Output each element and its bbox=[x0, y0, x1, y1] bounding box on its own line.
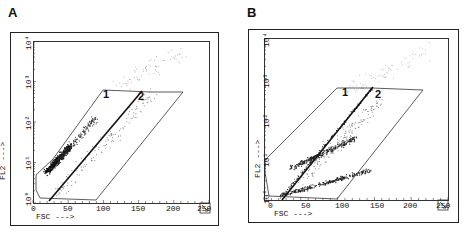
panel-b-y-tick-3: 10³ bbox=[262, 74, 271, 88]
panel-a-gate-label-2: 2 bbox=[138, 90, 144, 102]
panel-a-y-tick-4: 10⁴ bbox=[24, 36, 33, 50]
panel-b-gate-label-1: 1 bbox=[342, 86, 348, 98]
panel-a-gate-label-1: 1 bbox=[103, 88, 109, 100]
panel-a-y-tick-1: 10¹ bbox=[24, 156, 33, 170]
panel-b-x-tick-200: 200 bbox=[403, 201, 417, 210]
panel-b-y-axis-label: FL2 ---> bbox=[253, 140, 262, 178]
panel-b-y-tick-1: 10¹ bbox=[262, 153, 271, 167]
panel-a-y-axis-label: FL2 ---> bbox=[0, 142, 7, 180]
panel-a-x-axis-label: FSC ---> bbox=[36, 212, 74, 221]
panel-b-x-tick-100: 100 bbox=[335, 201, 349, 210]
panel-b-gate-label-2: 2 bbox=[375, 88, 381, 100]
panel-a-y-tick-2: 10² bbox=[24, 116, 33, 130]
panel-a-y-tick-0: 10⁰ bbox=[24, 192, 33, 206]
panel-a-x-tick-100: 100 bbox=[96, 204, 110, 213]
panel-b-x-axis-label: FSC ---> bbox=[274, 209, 312, 218]
panel-b-y-tick-0: 10⁰ bbox=[262, 190, 271, 204]
panel-b-y-tick-2: 10² bbox=[262, 114, 271, 128]
panel-b-x-tick-250: 250 bbox=[436, 201, 450, 210]
panel-a-x-tick-200: 200 bbox=[166, 204, 180, 213]
panel-a-x-tick-250: 250 bbox=[197, 204, 211, 213]
panel-b-x-tick-50: 50 bbox=[301, 201, 311, 210]
panel-b-scatter bbox=[264, 40, 448, 210]
panel-b-x-tick-150: 150 bbox=[370, 201, 384, 210]
panel-b-y-tick-4: 10⁴ bbox=[262, 33, 271, 47]
figure-graphics bbox=[0, 0, 465, 235]
panel-a-x-tick-150: 150 bbox=[131, 204, 145, 213]
panel-a-y-tick-3: 10³ bbox=[24, 75, 33, 89]
panel-a-x-tick-50: 50 bbox=[63, 204, 73, 213]
panel-a-scatter bbox=[33, 43, 210, 213]
